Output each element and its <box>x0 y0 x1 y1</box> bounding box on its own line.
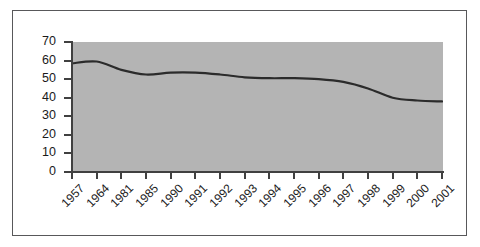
x-axis-labels: 1957196419811985199019911992199319941995… <box>0 0 480 247</box>
chart-figure: 010203040506070 195719641981198519901991… <box>0 0 480 247</box>
